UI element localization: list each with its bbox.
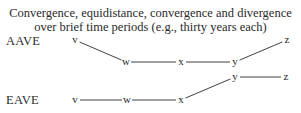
eave-trajectory: vwxyz [72,70,288,105]
diagram-canvas: vwxyz vwxyz [0,0,301,113]
node-x: x [178,55,184,67]
node-w: w [123,93,131,105]
connector-line [80,42,122,60]
node-w: w [122,55,130,67]
aave-trajectory: vwxyz [72,33,289,67]
connector-line [240,42,283,60]
node-z: z [285,33,290,45]
connector-line [186,79,231,98]
node-v: v [72,33,78,45]
node-y: y [232,55,238,67]
node-y: y [232,70,238,82]
node-x: x [178,93,184,105]
node-z: z [284,70,289,82]
node-v: v [72,93,78,105]
